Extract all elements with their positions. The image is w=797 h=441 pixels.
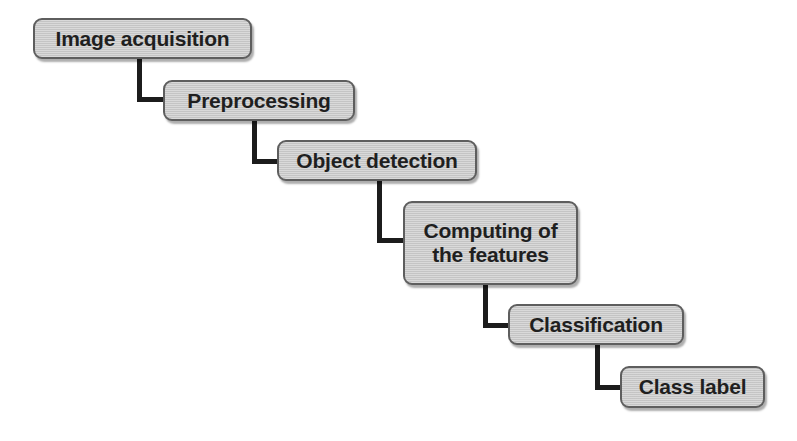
flow-node-label: Classification <box>523 313 669 337</box>
flow-node-label: Class label <box>633 375 753 399</box>
flowchart-diagram: Image acquisition Preprocessing Object d… <box>0 0 797 441</box>
flow-node-object-detection: Object detection <box>277 140 477 181</box>
flow-node-classification: Classification <box>508 304 684 345</box>
flow-node-image-acquisition: Image acquisition <box>33 18 252 59</box>
flow-node-label: Object detection <box>290 149 463 173</box>
connector-vertical-segment <box>377 179 382 243</box>
flow-node-label: Computing of the features <box>417 219 563 266</box>
connector-vertical-segment <box>483 283 488 328</box>
connector-vertical-segment <box>595 343 600 390</box>
connector-vertical-segment <box>252 119 257 164</box>
flow-node-label: Preprocessing <box>181 89 336 113</box>
flow-node-label: Image acquisition <box>50 27 236 51</box>
flow-node-class-label: Class label <box>620 366 765 408</box>
flow-node-preprocessing: Preprocessing <box>163 80 355 121</box>
flow-node-computing-features: Computing of the features <box>403 201 578 285</box>
connector-vertical-segment <box>137 57 142 102</box>
